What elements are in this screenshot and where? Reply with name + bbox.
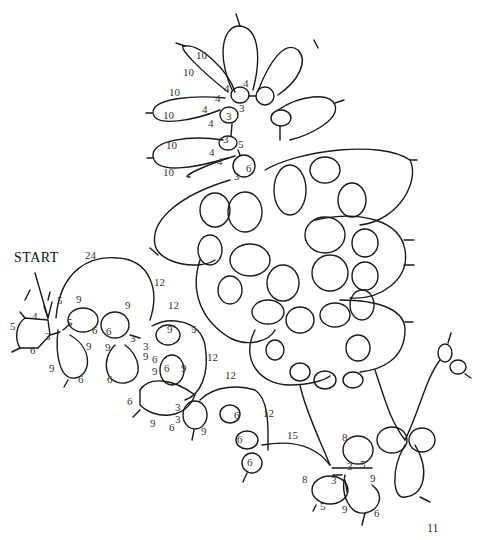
stitch-count: 12 [168,300,179,311]
stitch-count: 3 [234,171,240,182]
stitch-count: 9 [152,366,158,377]
lace-drawing [0,0,480,540]
stitch-count: 5 [320,501,326,512]
stitch-count: 5 [10,321,16,332]
stitch-count: 6 [30,345,36,356]
stitch-count: 9 [201,426,207,437]
stitch-count: 9 [150,418,156,429]
stitch-count: 4 [217,156,223,167]
stitch-count: 9 [143,351,149,362]
stitch-count: 24 [85,250,96,261]
stitch-count: 4 [32,311,38,322]
stitch-count: 12 [225,370,236,381]
start-label: START [14,250,59,266]
stitch-count: 6 [127,396,133,407]
stitch-count: 3 [331,475,337,486]
stitch-count: 9 [342,504,348,515]
stitch-count: 9 [49,363,55,374]
stitch-count: 5 [57,295,63,306]
stitch-count: 6 [164,363,170,374]
bottom-right-motif [300,333,471,525]
stitch-count: 15 [287,430,298,441]
stitch-count: 9 [167,324,173,335]
stitch-count: 12 [263,408,274,419]
stitch-count: 6 [234,410,240,421]
stitch-count: 10 [163,110,174,121]
stitch-count: 4 [224,83,230,94]
stitch-count: 3 [45,331,51,342]
stitch-count: 10 [163,167,174,178]
stitch-count: 4 [243,78,249,89]
stitch-count: 10 [183,67,194,78]
stitch-count: 5 [360,459,366,470]
page-number: 11 [427,521,439,536]
stitch-count: 10 [166,140,177,151]
stitch-count: 6 [169,422,175,433]
stitch-count: 6 [374,508,380,519]
stitch-count: 5 [191,324,197,335]
stitch-count: 10 [196,50,207,61]
stitch-count: 8 [302,474,308,485]
stitch-count: 6 [78,374,84,385]
stitch-count: 6 [247,457,253,468]
stitch-count: 12 [207,352,218,363]
stitch-count: 3 [175,402,181,413]
stitch-count: 3 [347,461,353,472]
stitch-count: 6 [92,325,98,336]
left-motif [12,248,268,450]
stitch-count: 3 [130,333,136,344]
stitch-count: 6 [237,434,243,445]
stitch-count: 9 [105,342,111,353]
tatting-diagram: START 1010101010104434434345463241259945… [0,0,480,540]
stitch-count: 6 [106,326,112,337]
stitch-count: 9 [86,341,92,352]
stitch-count: 6 [107,374,113,385]
stitch-count: 5 [238,139,244,150]
stitch-count: 9 [76,294,82,305]
stitch-count: 9 [125,300,131,311]
stitch-count: 3 [175,414,181,425]
stitch-count: 3 [239,103,245,114]
stitch-count: 3 [226,111,232,122]
stitch-count: 9 [181,363,187,374]
stitch-count: 8 [342,432,348,443]
stitch-count: 4 [202,104,208,115]
stitch-count: 3 [223,134,229,145]
stitch-count: 9 [370,473,376,484]
stitch-count: 5 [67,317,73,328]
stitch-count: 4 [215,93,221,104]
stitch-count: 6 [246,163,252,174]
stitch-count: 4 [208,118,214,129]
stitch-count: 10 [169,87,180,98]
stitch-count: 4 [209,147,215,158]
central-medallion [154,149,417,389]
stitch-count: 12 [154,277,165,288]
stitch-count: 6 [152,354,158,365]
